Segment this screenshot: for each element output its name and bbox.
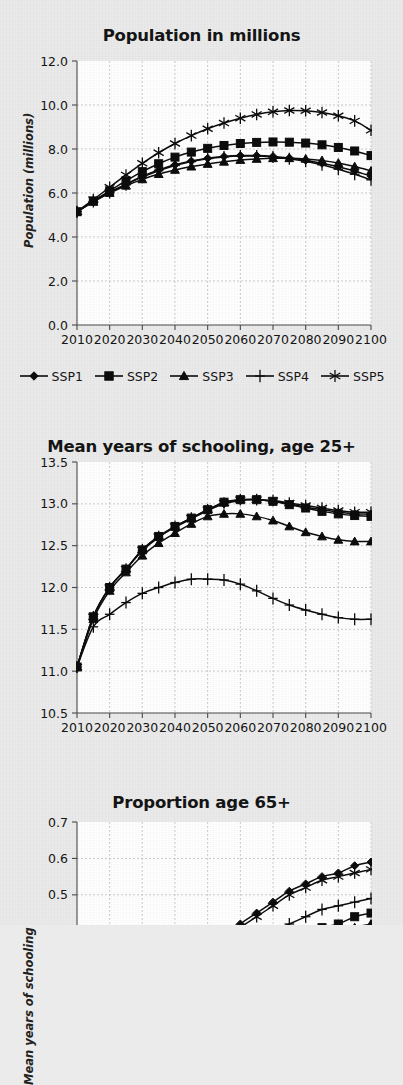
svg-text:2050: 2050: [192, 720, 224, 735]
legend-label: SSP5: [353, 369, 384, 384]
legend-item-ssp1[interactable]: SSP1: [19, 368, 83, 384]
legend-label: SSP4: [278, 369, 309, 384]
svg-text:2060: 2060: [224, 332, 256, 347]
svg-text:13.0: 13.0: [40, 496, 68, 511]
svg-text:0.0: 0.0: [48, 318, 68, 333]
legend-item-ssp3[interactable]: SSP3: [169, 368, 233, 384]
svg-text:12.0: 12.0: [40, 580, 68, 595]
svg-text:2010: 2010: [61, 332, 93, 347]
svg-text:12.5: 12.5: [40, 538, 68, 553]
triangle-marker-icon: [169, 368, 199, 384]
svg-text:2030: 2030: [126, 720, 158, 735]
chart-legend: SSP1SSP2SSP3SSP4SSP5: [0, 368, 403, 384]
svg-text:2040: 2040: [159, 332, 191, 347]
chart-canvas-schooling: 10.511.011.512.012.513.013.5201020202030…: [0, 415, 403, 755]
svg-text:2080: 2080: [290, 720, 322, 735]
chart-canvas-proportion-65: 0.50.60.7: [0, 755, 403, 925]
svg-text:2030: 2030: [126, 332, 158, 347]
svg-text:2070: 2070: [257, 720, 289, 735]
legend-item-ssp4[interactable]: SSP4: [245, 368, 309, 384]
svg-text:10.0: 10.0: [40, 98, 68, 113]
svg-text:10.5: 10.5: [40, 706, 68, 721]
svg-text:2090: 2090: [322, 332, 354, 347]
svg-text:2070: 2070: [257, 332, 289, 347]
svg-text:2090: 2090: [322, 720, 354, 735]
svg-text:13.5: 13.5: [40, 455, 68, 470]
chart-panel-schooling: Mean years of schooling, age 25+ Mean ye…: [0, 415, 403, 755]
y-axis-label-schooling: Mean years of schooling: [22, 927, 36, 1085]
svg-text:6.0: 6.0: [48, 186, 68, 201]
svg-text:11.0: 11.0: [40, 664, 68, 679]
svg-text:0.5: 0.5: [48, 887, 68, 902]
svg-text:2040: 2040: [159, 720, 191, 735]
chart-canvas-population: 0.02.04.06.08.010.012.020102020203020402…: [0, 0, 403, 360]
square-marker-icon: [94, 368, 124, 384]
svg-text:2080: 2080: [290, 332, 322, 347]
svg-text:2060: 2060: [224, 720, 256, 735]
svg-text:2050: 2050: [192, 332, 224, 347]
svg-text:12.0: 12.0: [40, 54, 68, 69]
legend-label: SSP1: [52, 369, 83, 384]
legend-item-ssp5[interactable]: SSP5: [320, 368, 384, 384]
svg-text:4.0: 4.0: [48, 230, 68, 245]
svg-text:2.0: 2.0: [48, 274, 68, 289]
asterisk-marker-icon: [320, 368, 350, 384]
diamond-marker-icon: [19, 368, 49, 384]
legend-label: SSP2: [127, 369, 158, 384]
svg-text:8.0: 8.0: [48, 142, 68, 157]
legend-item-ssp2[interactable]: SSP2: [94, 368, 158, 384]
plus-marker-icon: [245, 368, 275, 384]
chart-panel-proportion-65: Proportion age 65+ 0.50.60.7: [0, 755, 403, 925]
legend-label: SSP3: [202, 369, 233, 384]
svg-text:2010: 2010: [61, 720, 93, 735]
svg-text:2100: 2100: [355, 720, 387, 735]
svg-text:0.7: 0.7: [48, 815, 68, 830]
svg-text:2100: 2100: [355, 332, 387, 347]
svg-text:2020: 2020: [94, 332, 126, 347]
chart-panel-population: Population in millions Population (milli…: [0, 0, 403, 415]
svg-text:0.6: 0.6: [48, 851, 68, 866]
svg-text:11.5: 11.5: [40, 622, 68, 637]
svg-text:2020: 2020: [94, 720, 126, 735]
